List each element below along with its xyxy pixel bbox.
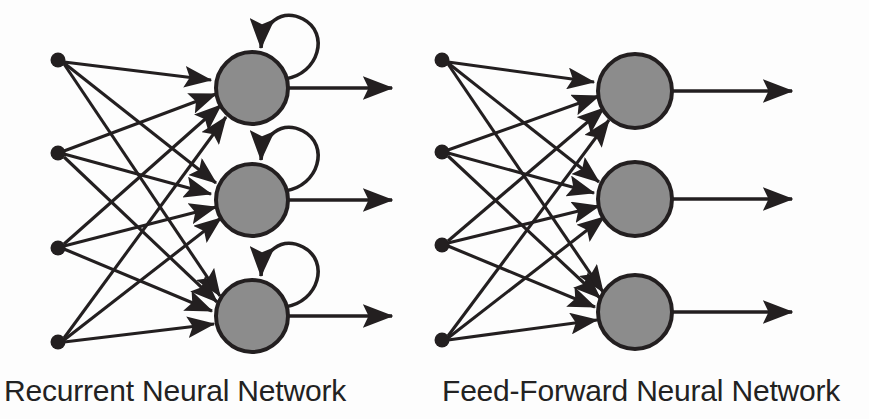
ffnn-input-4 — [435, 333, 450, 348]
rnn-input-4 — [51, 335, 66, 350]
rnn-connections — [64, 62, 226, 342]
ffnn-edge-i3-n1 — [448, 108, 604, 241]
ffnn-neuron-3 — [598, 275, 672, 349]
rnn-edge-i4-n1 — [64, 117, 226, 338]
ffnn-neuron-2 — [598, 162, 672, 236]
rnn-edge-i3-n3 — [64, 249, 212, 311]
rnn-output-arrows — [285, 88, 392, 316]
ffnn-input-2 — [435, 145, 450, 160]
rnn-neurons — [216, 52, 288, 352]
rnn-input-1 — [51, 53, 66, 68]
rnn-input-2 — [51, 146, 66, 161]
ffnn-edge-i4-n2 — [448, 217, 604, 338]
ffnn-neurons — [598, 54, 672, 349]
ffnn-neuron-1 — [598, 54, 672, 128]
rnn-neuron-1 — [216, 52, 288, 124]
diagram-canvas: Recurrent Neural Network Feed-Forward Ne… — [0, 0, 869, 419]
rnn-neuron-2 — [216, 164, 288, 236]
ffnn-edge-i3-n3 — [448, 246, 595, 307]
rnn-neuron-3 — [216, 280, 288, 352]
ffnn-edge-i2-n1 — [448, 96, 599, 150]
rnn-input-nodes — [51, 53, 66, 350]
ffnn-input-1 — [435, 53, 450, 68]
rnn-edge-i1-n1 — [64, 62, 211, 80]
ffnn-input-3 — [435, 238, 450, 253]
feed-forward-network-label: Feed-Forward Neural Network — [442, 376, 840, 406]
feed-forward-network-group — [435, 53, 793, 350]
recurrent-network-group — [51, 15, 393, 352]
ffnn-edge-i4-n3 — [448, 320, 597, 340]
rnn-edge-i2-n1 — [64, 94, 216, 151]
rnn-edge-i4-n3 — [64, 324, 214, 342]
rnn-input-3 — [51, 241, 66, 256]
recurrent-network-label: Recurrent Neural Network — [4, 376, 346, 406]
ffnn-input-nodes — [435, 53, 450, 348]
ffnn-output-arrows — [669, 91, 792, 312]
ffnn-connections — [448, 62, 609, 340]
neural-network-diagram — [0, 0, 869, 419]
rnn-edge-i4-n2 — [64, 218, 221, 340]
